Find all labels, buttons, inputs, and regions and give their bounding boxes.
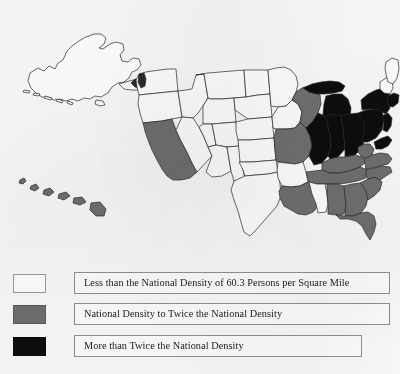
legend-label-box-mid: National Density to Twice the National D… — [74, 303, 390, 325]
state-AR — [277, 162, 308, 187]
state-FL — [336, 212, 376, 240]
state-AL — [327, 184, 346, 215]
us-density-map — [0, 0, 400, 262]
legend-swatch-mid — [13, 305, 46, 324]
state-KS — [238, 138, 276, 162]
state-CO — [212, 122, 239, 147]
state-TX — [231, 172, 281, 236]
legend-item-mid: National Density to Twice the National D… — [0, 301, 400, 327]
state-AK — [28, 34, 141, 101]
legend-label-box-low: Less than the National Density of 60.3 P… — [74, 272, 390, 294]
state-SD — [234, 94, 272, 119]
legend-label-box-high: More than Twice the National Density — [74, 335, 362, 357]
state-OR — [138, 91, 182, 123]
legend-item-low: Less than the National Density of 60.3 P… — [0, 270, 400, 296]
state-MD-DE — [374, 136, 392, 149]
scanned-page: Less than the National Density of 60.3 P… — [0, 0, 400, 374]
legend-label-high: More than Twice the National Density — [75, 341, 244, 351]
alaska-kodiak — [95, 100, 105, 106]
hawaii-inset — [19, 178, 106, 216]
legend-swatch-high — [13, 337, 46, 356]
state-NE — [236, 117, 274, 140]
legend-swatch-low — [13, 274, 46, 293]
state-HI — [19, 178, 26, 184]
legend-label-low: Less than the National Density of 60.3 P… — [75, 278, 349, 288]
state-NJ — [382, 113, 392, 132]
state-WY — [203, 98, 236, 124]
map-legend: Less than the National Density of 60.3 P… — [0, 264, 400, 374]
map-svg — [0, 0, 400, 262]
state-MI-upper — [303, 81, 345, 94]
state-ND — [244, 70, 270, 97]
legend-label-mid: National Density to Twice the National D… — [75, 309, 282, 319]
legend-item-high: More than Twice the National Density — [0, 333, 400, 359]
